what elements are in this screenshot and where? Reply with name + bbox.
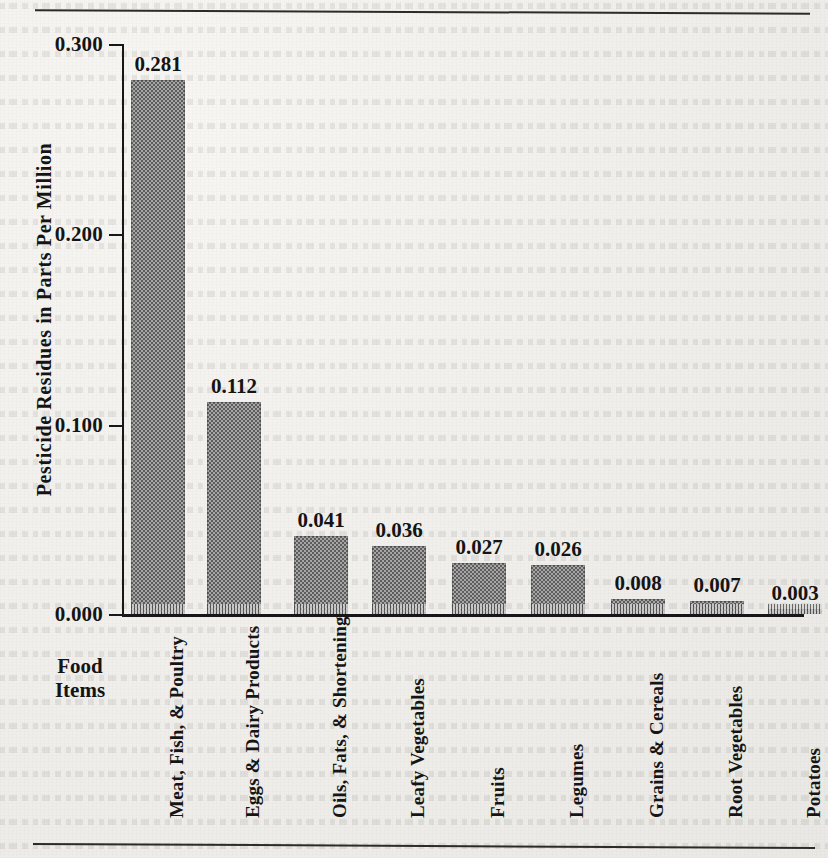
bar-category-label-oils-fats-shortening: Oils, Fats, & Shortening <box>329 616 351 818</box>
y-tick-mark-0000 <box>109 614 123 616</box>
bar-category-label-grains-cereals: Grains & Cereals <box>646 673 668 818</box>
bar-oils-fats-shortening <box>294 536 348 614</box>
y-tick-label-0300: 0.300 <box>0 32 103 57</box>
bar-value-label-fruits: 0.027 <box>434 535 524 560</box>
bar-potatoes <box>768 609 822 614</box>
bar-value-label-potatoes: 0.003 <box>750 581 828 606</box>
bar-category-label-potatoes: Potatoes <box>803 748 825 818</box>
x-axis-title-line1: Food <box>34 655 126 679</box>
bar-category-label-legumes: Legumes <box>566 744 588 818</box>
bar-value-label-oils-fats-shortening: 0.041 <box>276 508 366 533</box>
y-axis-title: Pesticide Residues in Parts Per Million <box>33 105 56 535</box>
bar-meat-fish-poultry <box>131 80 185 614</box>
bar-category-label-eggs-dairy-products: Eggs & Dairy Products <box>242 626 264 818</box>
bar-category-label-meat-fish-poultry: Meat, Fish, & Poultry <box>166 636 188 818</box>
y-tick-mark-0300 <box>109 44 123 46</box>
bar-eggs-dairy-products <box>207 402 261 614</box>
bar-category-label-fruits: Fruits <box>487 767 509 818</box>
x-axis-title: Food Items <box>34 655 126 702</box>
y-tick-mark-0200 <box>109 234 123 236</box>
y-tick-label-0000: 0.000 <box>0 602 103 627</box>
bar-category-label-root-vegetables: Root Vegetables <box>725 686 747 818</box>
bar-legumes <box>531 565 585 614</box>
bar-value-label-root-vegetables: 0.007 <box>672 573 762 598</box>
bar-category-label-leafy-vegetables: Leafy Vegetables <box>407 678 429 818</box>
x-axis-line <box>122 614 804 617</box>
bar-value-label-leafy-vegetables: 0.036 <box>354 518 444 543</box>
bar-value-label-grains-cereals: 0.008 <box>593 571 683 596</box>
bar-grains-cereals <box>611 599 665 614</box>
bar-value-label-meat-fish-poultry: 0.281 <box>113 52 203 77</box>
bar-value-label-eggs-dairy-products: 0.112 <box>189 374 279 399</box>
bar-fruits <box>452 563 506 614</box>
bar-leafy-vegetables <box>372 546 426 614</box>
bar-root-vegetables <box>690 601 744 614</box>
bar-chart: 0.300 0.200 0.100 0.000 Pesticide Residu… <box>0 0 828 858</box>
y-tick-mark-0100 <box>109 425 123 427</box>
x-axis-title-line2: Items <box>34 679 126 703</box>
y-axis-line <box>122 44 124 617</box>
bar-value-label-legumes: 0.026 <box>513 537 603 562</box>
